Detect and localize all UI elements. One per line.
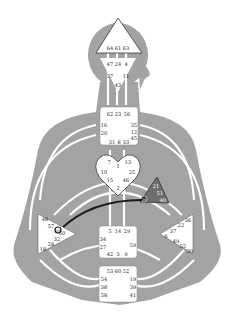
- svg-text:52: 52: [123, 268, 129, 274]
- svg-text:58: 58: [101, 292, 107, 298]
- svg-text:9: 9: [124, 251, 127, 257]
- bodygraph: 646163 47244 3711 43 622356 1635 2012 45…: [0, 0, 232, 324]
- svg-text:19: 19: [130, 276, 136, 282]
- svg-text:7: 7: [107, 159, 110, 165]
- svg-text:4: 4: [124, 61, 127, 67]
- svg-text:35: 35: [131, 122, 137, 128]
- svg-text:28: 28: [48, 241, 54, 247]
- svg-text:23: 23: [115, 111, 121, 117]
- svg-text:30: 30: [187, 248, 193, 254]
- svg-text:15: 15: [107, 177, 113, 183]
- svg-text:47: 47: [107, 61, 113, 67]
- svg-text:32: 32: [54, 236, 60, 242]
- svg-text:2: 2: [116, 185, 119, 191]
- svg-text:6: 6: [164, 233, 167, 239]
- svg-text:64: 64: [107, 45, 113, 51]
- svg-text:43: 43: [115, 82, 121, 88]
- svg-text:55: 55: [180, 243, 186, 249]
- svg-text:14: 14: [115, 228, 121, 234]
- svg-text:37: 37: [107, 73, 113, 79]
- svg-text:31: 31: [109, 139, 115, 145]
- sacral-center: 51429 342759 4239: [99, 226, 137, 258]
- svg-text:22: 22: [178, 222, 184, 228]
- svg-text:1: 1: [116, 163, 119, 169]
- svg-text:8: 8: [117, 139, 120, 145]
- svg-text:51: 51: [157, 190, 163, 196]
- svg-text:61: 61: [115, 45, 121, 51]
- svg-text:46: 46: [123, 177, 129, 183]
- bodygraph-svg: 646163 47244 3711 43 622356 1635 2012 45…: [0, 0, 232, 324]
- svg-text:10: 10: [101, 169, 107, 175]
- svg-text:54: 54: [101, 276, 107, 282]
- svg-text:18: 18: [40, 246, 46, 252]
- svg-text:45: 45: [131, 135, 137, 141]
- svg-text:29: 29: [124, 228, 130, 234]
- svg-text:37: 37: [170, 228, 176, 234]
- svg-text:38: 38: [101, 284, 107, 290]
- svg-text:57: 57: [48, 223, 54, 229]
- svg-text:3: 3: [116, 251, 119, 257]
- svg-text:34: 34: [100, 236, 106, 242]
- svg-text:5: 5: [108, 228, 111, 234]
- svg-text:20: 20: [101, 130, 107, 136]
- svg-text:33: 33: [123, 139, 129, 145]
- svg-text:24: 24: [115, 61, 121, 67]
- svg-text:26: 26: [142, 198, 146, 202]
- svg-text:49: 49: [173, 238, 179, 244]
- svg-text:21: 21: [153, 183, 159, 189]
- svg-text:13: 13: [125, 159, 131, 165]
- svg-text:44: 44: [56, 229, 61, 233]
- svg-text:53: 53: [107, 268, 113, 274]
- svg-text:48: 48: [42, 216, 48, 222]
- svg-text:60: 60: [115, 268, 121, 274]
- root-center: 536052 5419 3839 5841: [99, 266, 137, 302]
- svg-text:56: 56: [124, 111, 130, 117]
- svg-text:42: 42: [107, 251, 113, 257]
- svg-text:62: 62: [107, 111, 113, 117]
- svg-text:40: 40: [160, 197, 166, 203]
- svg-text:59: 59: [130, 242, 136, 248]
- svg-text:16: 16: [101, 122, 107, 128]
- svg-text:25: 25: [129, 169, 135, 175]
- svg-text:11: 11: [123, 73, 129, 79]
- throat-center: 622356 1635 2012 45 31833: [100, 107, 138, 145]
- svg-text:36: 36: [185, 217, 191, 223]
- svg-text:27: 27: [100, 244, 106, 250]
- svg-text:63: 63: [123, 45, 129, 51]
- svg-text:39: 39: [130, 284, 136, 290]
- svg-text:41: 41: [130, 292, 136, 298]
